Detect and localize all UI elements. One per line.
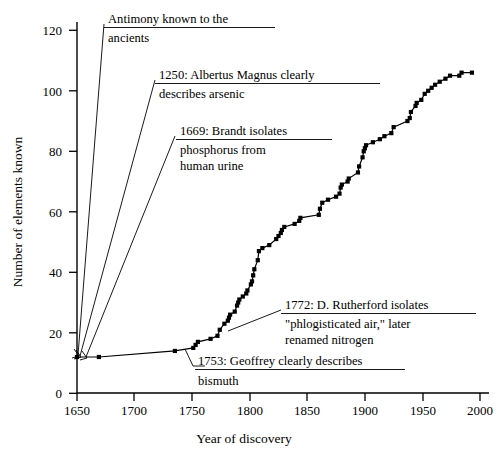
data-point-marker bbox=[392, 125, 396, 129]
data-point-marker bbox=[415, 101, 419, 105]
y-tick-label-120: 120 bbox=[43, 23, 63, 38]
data-point-marker bbox=[443, 77, 447, 81]
data-point-marker bbox=[282, 225, 286, 229]
annotation-antimony-line1: Antimony known to the bbox=[108, 12, 228, 26]
data-point-marker bbox=[173, 349, 177, 353]
data-point-marker bbox=[357, 164, 361, 168]
annotation-geoffroy-line2: bismuth bbox=[198, 374, 239, 388]
data-point-marker bbox=[267, 243, 271, 247]
annotation-albertus-line1: 1250: Albertus Magnus clearly bbox=[159, 68, 315, 82]
series-line bbox=[77, 73, 472, 357]
data-point-marker bbox=[326, 198, 330, 202]
data-point-marker bbox=[320, 201, 324, 205]
data-point-marker bbox=[298, 216, 302, 220]
y-tick-label-0: 0 bbox=[56, 386, 63, 401]
data-point-marker bbox=[438, 80, 442, 84]
data-point-marker bbox=[252, 267, 256, 271]
data-point-marker bbox=[356, 170, 360, 174]
data-point-marker bbox=[419, 98, 423, 102]
y-tick-group: 120 100 80 60 40 20 0 bbox=[43, 23, 78, 401]
annotation-brandt-line3: human urine bbox=[180, 159, 244, 173]
chart-figure: 120 100 80 60 40 20 0 1650 1700 1750 180… bbox=[0, 0, 498, 459]
data-point-marker bbox=[378, 137, 382, 141]
data-point-marker bbox=[97, 355, 101, 359]
annotation-rutherford-line2: "phlogisticated air," later bbox=[285, 317, 411, 331]
data-point-marker bbox=[433, 83, 437, 87]
data-point-marker bbox=[228, 313, 232, 317]
y-tick-label-20: 20 bbox=[49, 326, 62, 341]
leader-line-albertus bbox=[80, 80, 155, 356]
data-point-marker bbox=[218, 328, 222, 332]
annotation-albertus-line2: describes arsenic bbox=[159, 87, 245, 101]
data-point-marker bbox=[337, 192, 341, 196]
x-tick-label-2000: 2000 bbox=[467, 403, 493, 418]
y-tick-label-100: 100 bbox=[43, 84, 63, 99]
data-point-marker bbox=[196, 340, 200, 344]
annotation-rutherford-line1: 1772: D. Rutherford isolates bbox=[285, 298, 429, 312]
annotation-geoffroy-bismuth: 1753: Geoffrey clearly describes bismuth bbox=[185, 349, 405, 388]
series-markers bbox=[75, 71, 474, 360]
data-series bbox=[75, 71, 474, 360]
y-tick-label-60: 60 bbox=[49, 205, 62, 220]
data-point-marker bbox=[293, 222, 297, 226]
data-point-marker bbox=[250, 279, 254, 283]
annotation-antimony-line2: ancients bbox=[108, 31, 149, 45]
data-point-marker bbox=[347, 176, 351, 180]
x-tick-label-1800: 1800 bbox=[237, 403, 263, 418]
data-point-marker bbox=[317, 213, 321, 217]
x-tick-label-1900: 1900 bbox=[352, 403, 378, 418]
y-tick-label-40: 40 bbox=[49, 265, 62, 280]
x-tick-label-1950: 1950 bbox=[410, 403, 436, 418]
x-tick-label-1700: 1700 bbox=[121, 403, 147, 418]
data-point-marker bbox=[470, 71, 474, 75]
data-point-marker bbox=[318, 207, 322, 211]
y-axis-title: Number of elements known bbox=[10, 137, 25, 288]
data-point-marker bbox=[208, 337, 212, 341]
data-point-marker bbox=[371, 140, 375, 144]
data-point-marker bbox=[360, 155, 364, 159]
annotation-brandt-line2: phosphorus from bbox=[180, 143, 266, 157]
annotation-geoffroy-line1: 1753: Geoffrey clearly describes bbox=[198, 354, 363, 368]
annotation-rutherford-nitrogen: 1772: D. Rutherford isolates "phlogistic… bbox=[228, 298, 476, 347]
x-tick-label-1850: 1850 bbox=[294, 403, 320, 418]
data-point-marker bbox=[382, 134, 386, 138]
data-point-marker bbox=[409, 110, 413, 114]
x-tick-label-1750: 1750 bbox=[179, 403, 205, 418]
annotation-brandt-line1: 1669: Brandt isolates bbox=[180, 124, 287, 138]
data-point-marker bbox=[260, 246, 264, 250]
data-point-marker bbox=[459, 71, 463, 75]
data-point-marker bbox=[340, 182, 344, 186]
annotation-antimony: Antimony known to the ancients bbox=[72, 12, 275, 358]
data-point-marker bbox=[215, 334, 219, 338]
data-point-marker bbox=[389, 131, 393, 135]
annotation-albertus-magnus: 1250: Albertus Magnus clearly describes … bbox=[74, 68, 380, 359]
data-point-marker bbox=[233, 310, 237, 314]
x-tick-group: 1650 1700 1750 1800 1850 1900 1950 2000 bbox=[64, 393, 493, 418]
x-tick-label-1650: 1650 bbox=[64, 403, 90, 418]
leader-line-antimony bbox=[78, 24, 104, 355]
data-point-marker bbox=[245, 288, 249, 292]
x-axis-title: Year of discovery bbox=[196, 431, 292, 446]
annotation-rutherford-line3: renamed nitrogen bbox=[285, 333, 374, 347]
data-point-marker bbox=[256, 258, 260, 262]
y-tick-label-80: 80 bbox=[49, 144, 62, 159]
data-point-marker bbox=[251, 273, 255, 277]
elements-discovery-line-chart: 120 100 80 60 40 20 0 1650 1700 1750 180… bbox=[0, 0, 498, 459]
data-point-marker bbox=[364, 143, 368, 147]
data-point-marker bbox=[408, 116, 412, 120]
data-point-marker bbox=[448, 74, 452, 78]
